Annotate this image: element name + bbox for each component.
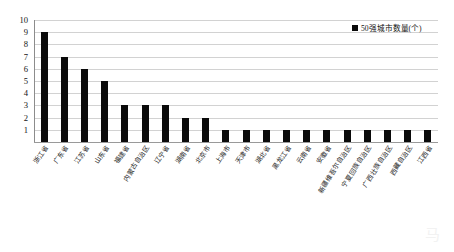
x-label-slot: 北京市 xyxy=(196,143,216,243)
y-axis-tick-label: 10 xyxy=(2,16,28,25)
y-axis-tick-label: 3 xyxy=(2,101,28,110)
watermark: 马 xyxy=(425,223,440,244)
x-label-slot: 广西壮族自治区 xyxy=(377,143,397,243)
x-label-slot: 江苏省 xyxy=(74,143,94,243)
x-label-slot: 浙江省 xyxy=(34,143,54,243)
x-label-slot: 西藏自治区 xyxy=(398,143,418,243)
legend-label: 50强城市数量(个) xyxy=(361,22,422,33)
x-axis-category-label-text: 天津市 xyxy=(235,144,252,165)
bar-slot xyxy=(196,20,216,142)
x-axis-category-label-text: 福建省 xyxy=(114,144,131,165)
bar-slot xyxy=(337,20,357,142)
x-label-slot: 新疆维吾尔自治区 xyxy=(337,143,357,243)
y-axis-tick-label: 1 xyxy=(2,126,28,135)
x-label-slot: 福建省 xyxy=(115,143,135,243)
x-axis-category-label-text: 安徽省 xyxy=(316,144,333,165)
bar-slot xyxy=(276,20,296,142)
y-axis-tick-label: 4 xyxy=(2,89,28,98)
x-label-slot: 云南省 xyxy=(297,143,317,243)
bar-slot xyxy=(216,20,236,142)
x-label-slot: 辽宁省 xyxy=(155,143,175,243)
x-label-slot: 黑龙江省 xyxy=(276,143,296,243)
x-axis-category-label-text: 辽宁省 xyxy=(154,144,171,165)
x-axis-category-label-text: 北京市 xyxy=(195,144,212,165)
plot-area xyxy=(34,20,438,142)
x-axis-category-label-text: 广东省 xyxy=(53,144,70,165)
x-axis-category-label-text: 云南省 xyxy=(296,144,313,165)
x-axis-category-label-text: 山东省 xyxy=(94,144,111,165)
y-axis-tick-label: 9 xyxy=(2,28,28,37)
x-label-slot: 湖北省 xyxy=(256,143,276,243)
bar xyxy=(121,105,128,142)
bar-slot xyxy=(256,20,276,142)
y-axis-tick-label: 2 xyxy=(2,114,28,123)
x-axis-category-labels: 浙江省广东省江苏省山东省福建省内蒙古自治区辽宁省湖南省北京市上海市天津市湖北省黑… xyxy=(34,143,438,243)
x-label-slot: 广东省 xyxy=(54,143,74,243)
x-label-slot: 上海市 xyxy=(216,143,236,243)
legend-square-marker xyxy=(352,25,358,31)
y-axis-tick-labels: 10987654321 xyxy=(0,20,30,142)
x-label-slot: 内蒙古自治区 xyxy=(135,143,155,243)
y-axis-tick-label: 6 xyxy=(2,65,28,74)
y-axis-tick-label: 8 xyxy=(2,40,28,49)
bar xyxy=(61,57,68,142)
bar xyxy=(142,105,149,142)
bar xyxy=(101,81,108,142)
bar-slot xyxy=(175,20,195,142)
y-axis-tick-label: 5 xyxy=(2,77,28,86)
bar-slot xyxy=(34,20,54,142)
chart-figure: 10987654321 50强城市数量(个) 浙江省广东省江苏省山东省福建省内蒙… xyxy=(0,0,454,252)
x-label-slot: 宁夏回族自治区 xyxy=(357,143,377,243)
x-axis-category-label-text: 上海市 xyxy=(215,144,232,165)
x-axis-category-label-text: 浙江省 xyxy=(33,144,50,165)
bar-slot xyxy=(135,20,155,142)
x-axis-category-label-text: 湖南省 xyxy=(174,144,191,165)
x-axis-category-label-text: 江苏省 xyxy=(73,144,90,165)
bar xyxy=(81,69,88,142)
bar-slot xyxy=(317,20,337,142)
bar-slot xyxy=(74,20,94,142)
x-label-slot: 湖南省 xyxy=(175,143,195,243)
bar-slot xyxy=(54,20,74,142)
bar-slot xyxy=(115,20,135,142)
x-axis-category-label-text: 江西省 xyxy=(417,144,434,165)
x-axis-category-label-text: 湖北省 xyxy=(255,144,272,165)
y-axis-tick-label: 7 xyxy=(2,53,28,62)
chart-legend: 50强城市数量(个) xyxy=(352,22,422,33)
x-label-slot: 天津市 xyxy=(236,143,256,243)
bar-slot xyxy=(236,20,256,142)
bar-series xyxy=(34,20,438,142)
bar-slot xyxy=(95,20,115,142)
x-label-slot: 山东省 xyxy=(95,143,115,243)
bar xyxy=(41,32,48,142)
